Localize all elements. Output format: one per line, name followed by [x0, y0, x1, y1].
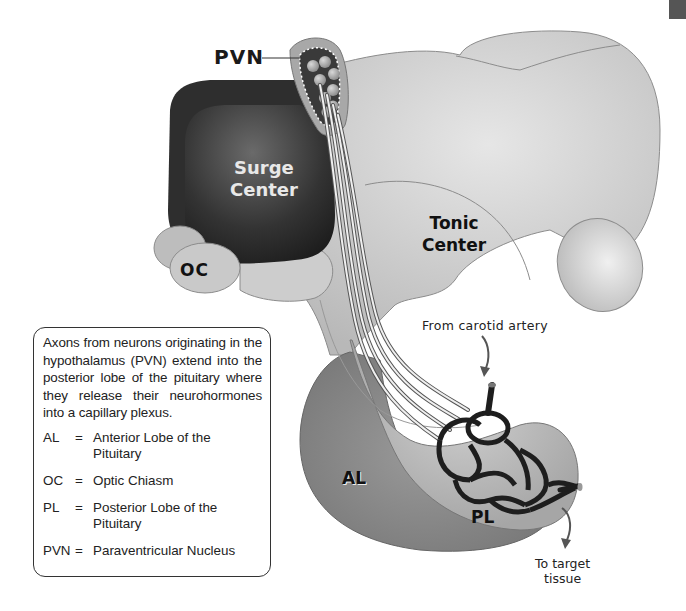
- surge-center-label-line2: Center: [230, 179, 298, 201]
- legend-abbr: OC: [43, 473, 75, 489]
- legend-equals: =: [75, 543, 93, 559]
- pl-label: PL: [471, 507, 494, 527]
- oc-label: OC: [180, 260, 209, 280]
- tonic-center-label-line1: Tonic: [422, 212, 486, 234]
- to-target-label: To target tissue: [535, 556, 590, 586]
- legend-row-oc: OC = Optic Chiasm: [43, 473, 262, 489]
- legend-definition: Anterior Lobe of the Pituitary: [93, 430, 262, 462]
- tonic-center-label: Tonic Center: [422, 212, 486, 256]
- legend-definition: Optic Chiasm: [93, 473, 262, 489]
- diagram-stage: PVN Surge Center Tonic Center OC AL PL F…: [0, 0, 686, 611]
- page-corner-tab: [669, 0, 686, 19]
- surge-center-label-line1: Surge: [230, 157, 298, 179]
- legend-definition: Posterior Lobe of the Pituitary: [93, 500, 262, 532]
- info-description: Axons from neurons originating in the hy…: [43, 334, 262, 422]
- to-target-label-line1: To target: [535, 556, 590, 571]
- surge-center-label: Surge Center: [230, 157, 298, 201]
- from-carotid-label: From carotid artery: [422, 318, 548, 333]
- legend-abbr: PL: [43, 500, 75, 532]
- to-target-label-line2: tissue: [535, 571, 590, 586]
- legend-abbr: AL: [43, 430, 75, 462]
- legend-equals: =: [75, 500, 93, 532]
- legend-equals: =: [75, 430, 93, 462]
- legend-row-pvn: PVN = Paraventricular Nucleus: [43, 543, 262, 559]
- al-label: AL: [342, 468, 366, 488]
- pvn-label: PVN: [214, 45, 264, 69]
- legend-equals: =: [75, 473, 93, 489]
- legend-definition: Paraventricular Nucleus: [93, 543, 262, 559]
- legend-abbr: PVN: [43, 543, 75, 559]
- info-box: Axons from neurons originating in the hy…: [33, 327, 271, 577]
- arrow-from-carotid: [480, 336, 490, 377]
- carotid-vessel: [488, 383, 496, 414]
- tonic-center-label-line2: Center: [422, 234, 486, 256]
- legend-row-al: AL = Anterior Lobe of the Pituitary: [43, 430, 262, 462]
- legend-row-pl: PL = Posterior Lobe of the Pituitary: [43, 500, 262, 532]
